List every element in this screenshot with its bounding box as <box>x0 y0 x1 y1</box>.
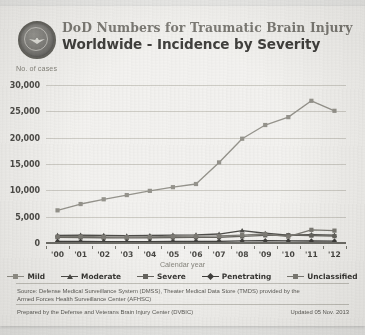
legend-marker-icon <box>7 272 24 280</box>
data-point-marker <box>148 235 152 239</box>
data-point-marker <box>102 197 106 201</box>
x-axis-tick <box>208 246 209 249</box>
data-point-marker <box>125 235 129 239</box>
x-tick-label: '01 <box>74 250 87 259</box>
data-point-marker <box>240 233 244 237</box>
x-tick-label: '06 <box>190 250 203 259</box>
x-axis-tick <box>161 246 162 249</box>
legend-marker-icon <box>202 272 219 280</box>
x-axis-tick <box>184 246 185 249</box>
data-point-marker <box>309 234 313 238</box>
data-point-marker <box>332 229 336 233</box>
x-tick-label: '03 <box>120 250 133 259</box>
legend-label: Severe <box>157 272 186 281</box>
x-tick-label: '08 <box>236 250 249 259</box>
data-point-marker <box>125 193 129 197</box>
x-axis-tick <box>69 246 70 249</box>
data-point-marker <box>79 202 83 206</box>
title-line-2: Worldwide - Incidence by Severity <box>62 36 353 53</box>
x-tick-label: '07 <box>213 250 226 259</box>
legend-item-mild[interactable]: Mild <box>7 272 45 281</box>
footer-divider-bottom <box>16 304 349 305</box>
data-point-marker <box>217 234 221 238</box>
x-axis-tick-labels: '00'01'02'03'04'05'06'07'08'09'10'11'12 <box>46 246 346 258</box>
data-point-marker <box>55 208 59 212</box>
data-point-marker <box>171 185 175 189</box>
legend-marker-icon <box>137 272 154 280</box>
x-tick-label: '12 <box>328 250 341 259</box>
x-axis-title: Calendar year <box>0 260 365 269</box>
legend-label: Moderate <box>81 272 121 281</box>
data-point-marker <box>194 234 198 238</box>
x-tick-label: '00 <box>51 250 64 259</box>
data-point-marker <box>332 234 336 238</box>
dod-seal-icon <box>18 21 56 59</box>
footer-row: Prepared by the Defense and Veterans Bra… <box>17 309 349 315</box>
x-axis-line <box>46 242 346 243</box>
chart-legend: MildModerateSeverePenetratingUnclassifie… <box>0 270 365 282</box>
x-axis-tick <box>46 246 47 249</box>
title-block: DoD Numbers for Traumatic Brain Injury W… <box>62 20 353 53</box>
legend-marker-icon <box>287 272 304 280</box>
data-point-marker <box>263 123 267 127</box>
x-tick-label: '11 <box>305 250 318 259</box>
x-axis-tick <box>138 246 139 249</box>
y-axis-title: No. of cases <box>16 64 57 73</box>
data-point-marker <box>55 235 59 239</box>
x-tick-label: '05 <box>166 250 179 259</box>
legend-marker-icon <box>61 272 78 280</box>
x-tick-label: '04 <box>143 250 156 259</box>
data-point-marker <box>217 160 221 164</box>
x-axis-tick <box>346 246 347 249</box>
legend-label: Penetrating <box>222 272 272 281</box>
x-tick-label: '09 <box>259 250 272 259</box>
x-axis-tick <box>231 246 232 249</box>
x-tick-label: '10 <box>282 250 295 259</box>
prepared-by-note: Prepared by the Defense and Veterans Bra… <box>17 309 193 315</box>
source-note: Source: Defense Medical Surveillance Sys… <box>17 287 317 303</box>
x-axis-tick <box>92 246 93 249</box>
data-point-marker <box>171 234 175 238</box>
data-point-marker <box>79 234 83 238</box>
data-point-marker <box>148 189 152 193</box>
poster-header: DoD Numbers for Traumatic Brain Injury W… <box>0 8 365 56</box>
data-point-marker <box>286 115 290 119</box>
series-line-mild <box>58 101 335 211</box>
series-lines <box>46 85 346 243</box>
updated-date: Updated 05 Nov. 2013 <box>290 309 349 315</box>
data-point-marker <box>286 235 290 239</box>
data-point-marker <box>240 137 244 141</box>
legend-label: Mild <box>27 272 45 281</box>
data-point-marker <box>102 235 106 239</box>
legend-item-moderate[interactable]: Moderate <box>61 272 121 281</box>
legend-item-penetrating[interactable]: Penetrating <box>202 272 272 281</box>
x-axis-tick <box>277 246 278 249</box>
x-axis-tick <box>254 246 255 249</box>
legend-item-severe[interactable]: Severe <box>137 272 186 281</box>
data-point-marker <box>309 228 313 232</box>
data-point-marker <box>194 182 198 186</box>
x-axis-tick <box>115 246 116 249</box>
gridline <box>46 243 346 244</box>
data-point-marker <box>309 99 313 103</box>
title-line-1: DoD Numbers for Traumatic Brain Injury <box>62 20 353 35</box>
x-axis-tick <box>323 246 324 249</box>
footer-divider-top <box>16 283 349 284</box>
data-point-marker <box>263 232 267 236</box>
legend-label: Unclassified <box>307 272 357 281</box>
x-tick-label: '02 <box>97 250 110 259</box>
chart-area <box>0 74 365 264</box>
eagle-glyph-icon <box>27 36 47 46</box>
data-point-marker <box>332 109 336 113</box>
legend-item-unclassified[interactable]: Unclassified <box>287 272 357 281</box>
x-axis-tick <box>300 246 301 249</box>
plot-area <box>46 85 346 243</box>
